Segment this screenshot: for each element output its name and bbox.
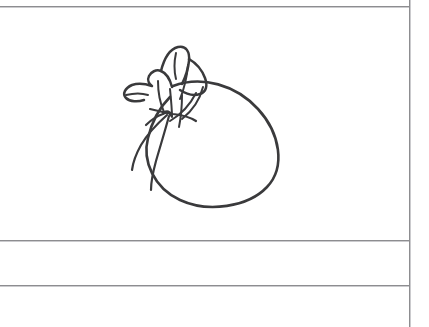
third-row <box>0 286 409 327</box>
sack-sketch-icon <box>110 37 300 217</box>
sack-sketch <box>110 37 300 217</box>
sheet-right-rule <box>409 0 410 327</box>
second-row <box>0 241 409 285</box>
second-row-text <box>0 241 409 253</box>
sketch-sheet <box>0 0 429 327</box>
drawing-row <box>0 7 409 240</box>
third-row-text <box>0 286 409 298</box>
